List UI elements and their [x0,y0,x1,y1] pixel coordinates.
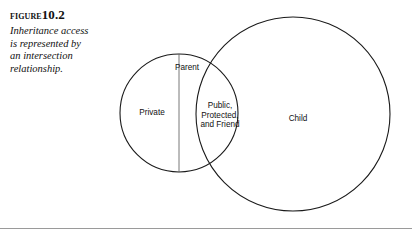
bottom-divider-rule [0,228,412,229]
child-region-label: Child [276,114,320,124]
figure-page: Figure10.2 Inheritance access is represe… [0,0,412,232]
intersection-label-line-2: Protected, [194,111,246,121]
parent-label: Parent [165,63,209,73]
intersection-label-line-1: Public, [194,101,246,111]
intersection-region-label: Public, Protected, and Friend [194,101,246,130]
private-region-label: Private [126,108,178,118]
venn-diagram: Parent Private Public, Protected, and Fr… [0,0,412,232]
intersection-label-line-3: and Friend [194,120,246,130]
